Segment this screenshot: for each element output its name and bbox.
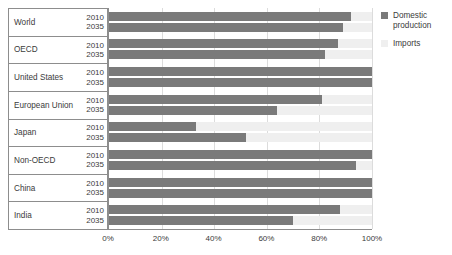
bar-segment-domestic (109, 122, 196, 131)
category-name: Japan (14, 128, 36, 137)
x-axis: 0%20%40%60%80%100% (108, 231, 372, 249)
bar-row (109, 122, 372, 131)
bar-segment-domestic (109, 216, 293, 225)
bar-row (109, 189, 372, 198)
year-label: 2010 (86, 151, 104, 160)
bar-segment-domestic (109, 12, 351, 21)
bar-segment-domestic (109, 205, 340, 214)
category-name: India (14, 211, 32, 220)
x-tick-label: 20% (153, 234, 169, 243)
bar-segment-imports (246, 133, 372, 142)
bar-segment-imports (196, 122, 372, 131)
year-labels: 20102035 (86, 13, 104, 32)
category-label-group: European Union20102035 (9, 92, 107, 120)
category-label-group: United States20102035 (9, 64, 107, 92)
bar-row (109, 39, 372, 48)
bar-row-group (109, 174, 372, 202)
bar-segment-domestic (109, 150, 372, 159)
year-labels: 20102035 (86, 123, 104, 142)
legend-item[interactable]: Domestic production (381, 11, 449, 32)
bar-row (109, 161, 372, 170)
x-tick-label: 0% (102, 234, 114, 243)
category-label-group: Japan20102035 (9, 120, 107, 148)
year-label: 2010 (86, 123, 104, 132)
x-tick-label: 80% (311, 234, 327, 243)
bar-segment-imports (338, 39, 372, 48)
year-label: 2035 (86, 160, 104, 169)
year-labels: 20102035 (86, 96, 104, 115)
gridline (372, 8, 373, 229)
category-name: Non-OECD (14, 156, 55, 165)
year-label: 2010 (86, 68, 104, 77)
year-label: 2010 (86, 13, 104, 22)
bar-row (109, 23, 372, 32)
year-label: 2010 (86, 206, 104, 215)
bar-segment-imports (343, 23, 372, 32)
bar-row (109, 216, 372, 225)
bar-segment-domestic (109, 67, 372, 76)
year-label: 2035 (86, 188, 104, 197)
legend-item[interactable]: Imports (381, 39, 449, 49)
bar-row (109, 106, 372, 115)
category-name: European Union (14, 101, 73, 110)
bar-row-group (109, 36, 372, 64)
bar-rows (109, 8, 372, 229)
bar-row (109, 205, 372, 214)
bar-row-group (109, 146, 372, 174)
bar-segment-domestic (109, 95, 322, 104)
year-label: 2010 (86, 179, 104, 188)
year-labels: 20102035 (86, 41, 104, 60)
bar-row (109, 133, 372, 142)
bar-segment-imports (322, 95, 372, 104)
year-label: 2010 (86, 41, 104, 50)
bar-segment-imports (325, 50, 372, 59)
year-label: 2035 (86, 22, 104, 31)
year-labels: 20102035 (86, 179, 104, 198)
bar-row-group (109, 119, 372, 147)
year-label: 2010 (86, 96, 104, 105)
x-tick-label: 100% (362, 234, 382, 243)
bar-row-group (109, 91, 372, 119)
legend-label: Imports (393, 39, 420, 49)
bar-segment-domestic (109, 133, 246, 142)
legend-swatch-icon (381, 12, 388, 19)
year-labels: 20102035 (86, 206, 104, 225)
bar-segment-imports (340, 205, 372, 214)
chart-legend: Domestic productionImports (381, 11, 449, 56)
category-name: OECD (14, 45, 38, 54)
bar-row (109, 67, 372, 76)
year-labels: 20102035 (86, 151, 104, 170)
bar-row-group (109, 63, 372, 91)
bar-segment-imports (351, 12, 372, 21)
bar-segment-domestic (109, 178, 372, 187)
bar-row-group (109, 8, 372, 36)
bar-segment-domestic (109, 23, 343, 32)
year-labels: 20102035 (86, 68, 104, 87)
stacked-bar-chart: World20102035OECD20102035United States20… (0, 0, 452, 255)
year-label: 2035 (86, 50, 104, 59)
category-label-group: China20102035 (9, 175, 107, 203)
bar-row-group (109, 201, 372, 229)
bar-segment-domestic (109, 106, 277, 115)
category-label-group: OECD20102035 (9, 37, 107, 65)
bar-row (109, 95, 372, 104)
year-label: 2035 (86, 133, 104, 142)
legend-label: Domestic production (393, 11, 449, 32)
bar-segment-imports (293, 216, 372, 225)
legend-swatch-icon (381, 40, 388, 47)
bar-segment-domestic (109, 189, 372, 198)
plot-area (108, 8, 372, 230)
bar-segment-imports (356, 161, 372, 170)
bar-row (109, 150, 372, 159)
bar-row (109, 50, 372, 59)
x-tick-label: 40% (206, 234, 222, 243)
category-name: World (14, 18, 35, 27)
bar-segment-domestic (109, 78, 372, 87)
category-label-group: World20102035 (9, 9, 107, 37)
year-label: 2035 (86, 105, 104, 114)
category-label-column: World20102035OECD20102035United States20… (8, 8, 108, 230)
x-tick-label: 60% (258, 234, 274, 243)
bar-segment-domestic (109, 161, 356, 170)
bar-segment-domestic (109, 39, 338, 48)
bar-row (109, 78, 372, 87)
